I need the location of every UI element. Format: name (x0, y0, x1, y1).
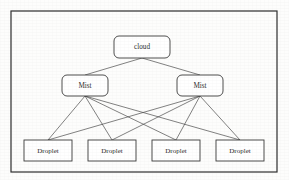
hierarchy-diagram: cloudMistMistDropletDropletDropletDrople… (0, 0, 289, 180)
node-cloud[interactable]: cloud (114, 36, 170, 58)
edge-group (48, 58, 240, 140)
node-mist-left[interactable]: Mist (62, 75, 108, 96)
edge-mist-left-to-droplet-1 (48, 96, 85, 140)
node-droplet-4[interactable]: Droplet (216, 140, 264, 161)
diagram-canvas: cloudMistMistDropletDropletDropletDrople… (0, 0, 289, 180)
edge-mist-right-to-droplet-1 (48, 96, 200, 140)
node-droplet-1[interactable]: Droplet (24, 140, 72, 161)
node-label-mist-right: Mist (193, 82, 206, 90)
node-group: cloudMistMistDropletDropletDropletDrople… (24, 36, 264, 161)
node-droplet-2[interactable]: Droplet (88, 140, 136, 161)
edge-mist-right-to-droplet-3 (176, 96, 200, 140)
node-label-droplet-4: Droplet (229, 147, 250, 155)
node-label-droplet-2: Droplet (101, 147, 122, 155)
edge-mist-right-to-droplet-4 (200, 96, 240, 140)
node-mist-right[interactable]: Mist (177, 75, 223, 96)
node-label-mist-left: Mist (78, 82, 91, 90)
node-droplet-3[interactable]: Droplet (152, 140, 200, 161)
node-label-cloud: cloud (134, 43, 150, 51)
node-label-droplet-1: Droplet (37, 147, 58, 155)
edge-cloud-to-mist-left (85, 58, 142, 75)
node-label-droplet-3: Droplet (165, 147, 186, 155)
edge-cloud-to-mist-right (142, 58, 200, 75)
